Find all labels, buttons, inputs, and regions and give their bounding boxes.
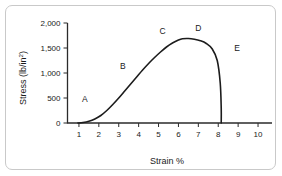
x-tick-label: 5 bbox=[156, 130, 161, 139]
y-tick-label: 2,000 bbox=[40, 19, 61, 28]
figure-border-frame: 05001,0001,5002,000 12345678910 ABCDE St… bbox=[5, 5, 276, 170]
data-series-group bbox=[78, 38, 221, 123]
chart-axes bbox=[68, 23, 273, 123]
y-tick-label: 500 bbox=[47, 94, 61, 103]
curve-point-label-c: C bbox=[159, 26, 165, 36]
x-tick-label: 6 bbox=[176, 130, 181, 139]
stress-strain-chart: 05001,0001,5002,000 12345678910 ABCDE St… bbox=[6, 6, 277, 171]
x-tick-label: 10 bbox=[254, 130, 263, 139]
curve-point-label-e: E bbox=[234, 43, 240, 53]
x-tick-label: 8 bbox=[216, 130, 221, 139]
x-tick-label: 7 bbox=[196, 130, 201, 139]
x-tick-label: 3 bbox=[117, 130, 122, 139]
curve-point-label-a: A bbox=[82, 94, 88, 104]
x-tick-label: 2 bbox=[97, 130, 102, 139]
x-axis-ticks: 12345678910 bbox=[77, 123, 263, 139]
x-tick-label: 9 bbox=[236, 130, 241, 139]
y-tick-label: 1,500 bbox=[40, 44, 61, 53]
x-tick-label: 4 bbox=[136, 130, 141, 139]
y-axis-ticks: 05001,0001,5002,000 bbox=[40, 19, 67, 128]
curve-point-label-d: D bbox=[195, 23, 201, 33]
axis-lines bbox=[68, 23, 273, 123]
x-tick-label: 1 bbox=[77, 130, 82, 139]
x-axis-title: Strain % bbox=[150, 156, 184, 166]
y-axis-title-suffix: ) bbox=[18, 51, 28, 54]
y-axis-title: Stress (lb/in2) bbox=[17, 51, 28, 105]
y-tick-label: 1,000 bbox=[40, 69, 61, 78]
curve-point-labels: ABCDE bbox=[82, 23, 240, 104]
y-tick-label: 0 bbox=[56, 119, 61, 128]
curve-point-label-b: B bbox=[120, 61, 126, 71]
stress-strain-curve bbox=[78, 38, 221, 123]
